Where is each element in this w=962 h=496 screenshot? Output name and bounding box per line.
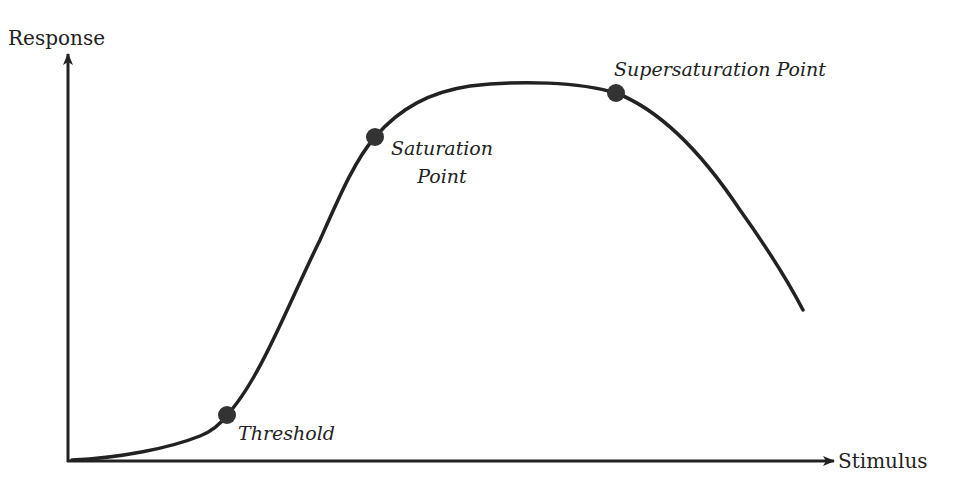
x-axis-label: Stimulus [838,451,928,471]
saturation-label-line2: Point [391,162,493,190]
saturation-point-marker [366,128,384,146]
y-axis-label: Response [8,28,105,48]
saturation-label-line1: Saturation [391,134,493,162]
response-stimulus-diagram: Response Stimulus Threshold Saturation P… [0,0,962,496]
threshold-label: Threshold [238,424,335,443]
supersaturation-point-label: Supersaturation Point [614,60,826,79]
threshold-point-marker [218,406,236,424]
supersaturation-point-marker [607,84,625,102]
saturation-point-label: Saturation Point [391,134,493,190]
